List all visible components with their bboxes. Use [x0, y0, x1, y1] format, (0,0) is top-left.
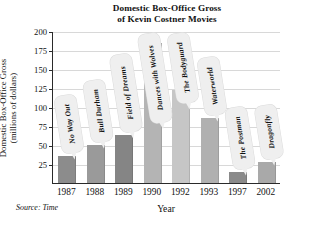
x-axis-label: Year — [52, 203, 280, 214]
callout-tail — [99, 140, 106, 149]
callout-label: No Way Out — [62, 104, 77, 145]
callout-tail — [241, 167, 248, 176]
bar[interactable] — [87, 145, 105, 183]
chart-title-line-1: Domestic Box-Office Gross — [62, 3, 272, 14]
y-axis-tick — [49, 32, 53, 33]
y-axis-tick-label: 25 — [38, 160, 47, 170]
y-axis-tick-label: 125 — [34, 84, 47, 94]
y-axis-tick — [49, 51, 53, 52]
x-axis-tick-label: 2002 — [256, 187, 275, 197]
bar-chart-figure: Domestic Box-Office Gross of Kevin Costn… — [0, 0, 324, 225]
y-axis-label: Domestic Box-Office Gross (millions of d… — [0, 28, 22, 188]
y-axis-tick — [49, 165, 53, 166]
callout-tail — [70, 152, 77, 161]
y-axis-tick — [49, 146, 53, 147]
y-axis-label-line-1: Domestic Box-Office Gross — [0, 28, 8, 188]
source-note: Source: Time — [16, 203, 58, 212]
y-axis-tick-label: 50 — [38, 141, 47, 151]
x-axis-tick-label: 1988 — [85, 187, 104, 197]
y-axis-label-line-2: (millions of dollars) — [8, 28, 18, 188]
bar[interactable] — [115, 135, 133, 183]
y-axis-tick — [49, 89, 53, 90]
callout-label: The Bodyguard — [175, 42, 192, 94]
callout-tail — [158, 121, 165, 130]
callout-tail — [213, 114, 220, 123]
x-axis-tick-label: 1989 — [114, 187, 133, 197]
x-axis-tick-label: 1992 — [171, 187, 190, 197]
x-axis-tick-label: 1987 — [57, 187, 76, 197]
callout-label: Field of Dreams — [118, 66, 135, 121]
callout-tail — [269, 158, 276, 167]
bar[interactable] — [201, 118, 219, 183]
callout-label: The Postman — [232, 115, 248, 160]
callout-label: Waterworld — [204, 67, 219, 106]
y-axis-tick — [49, 127, 53, 128]
x-axis-tick-label: 1997 — [228, 187, 247, 197]
callout-label: Dances with Wolves — [145, 45, 164, 111]
y-axis-tick — [49, 108, 53, 109]
chart-title: Domestic Box-Office Gross of Kevin Costn… — [62, 3, 272, 24]
callout-label: Dragonfly — [262, 115, 276, 150]
y-axis-tick-label: 175 — [34, 46, 47, 56]
x-axis-tick-label: 1990 — [142, 187, 161, 197]
x-axis-tick-label: 1993 — [199, 187, 218, 197]
y-axis-tick-label: 100 — [34, 103, 47, 113]
bar[interactable] — [58, 156, 76, 183]
y-axis-tick — [49, 70, 53, 71]
y-axis-tick-label: 150 — [34, 65, 47, 75]
callout-label: Bull Durham — [90, 88, 106, 133]
y-axis-tick-label: 75 — [38, 122, 47, 132]
chart-title-line-2: of Kevin Costner Movies — [62, 14, 272, 25]
y-axis-tick-label: 200 — [34, 27, 47, 37]
